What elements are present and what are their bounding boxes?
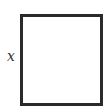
- square-shape: [20, 14, 103, 106]
- side-length-label: x: [7, 49, 15, 63]
